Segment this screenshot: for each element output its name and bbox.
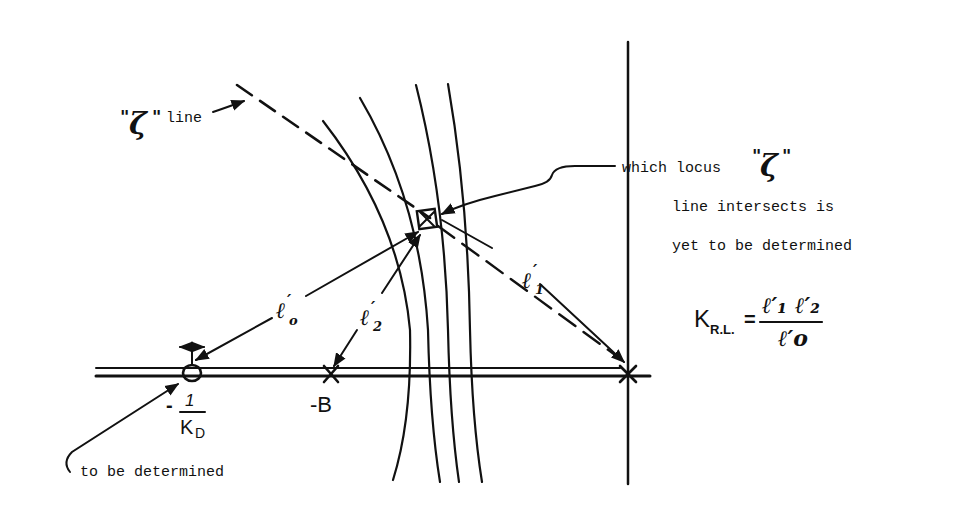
root-locus-curves [323,84,482,482]
zeta-line-label: " ζ " line [120,106,202,141]
svg-text:yet to be determined: yet to be determined [672,238,852,255]
l0-vector [196,232,418,360]
svg-text:ℓ′₂: ℓ′₂ [795,292,820,318]
svg-text:ℓ′o: ℓ′o [778,325,808,351]
annotation-bottom: to be determined [80,464,224,481]
svg-text:line: line [166,110,202,127]
svg-text:which locus: which locus [622,160,721,177]
svg-text:ζ: ζ [129,106,149,141]
svg-text:′: ′ [533,261,538,280]
svg-text:": " [782,145,791,166]
annotation-leader [442,166,615,214]
l1-label: ℓ ′ 1 [522,261,544,297]
bottom-leader [66,384,178,472]
test-point-icon [417,209,437,229]
svg-text:line intersects is: line intersects is [672,199,834,216]
l0-label: ℓ ′ o [276,291,298,328]
svg-text:′: ′ [371,298,376,317]
zero-label: - 1 K D [166,391,205,441]
svg-text:=: = [744,308,756,330]
zeta-line [237,85,430,218]
svg-text:K: K [180,416,194,438]
svg-text:1: 1 [535,282,544,297]
svg-text:K: K [694,305,710,332]
svg-text:-: - [166,394,173,416]
root-locus-diagram: " ζ " line which locus " ζ " line inters… [0,0,961,507]
pole-label: -B [310,392,332,417]
l2-label: ℓ ′ 2 [360,298,382,334]
real-axis [96,368,650,376]
svg-text:1: 1 [185,391,194,410]
svg-text:ℓ′₁: ℓ′₁ [762,292,787,318]
svg-text:′: ′ [287,291,292,310]
zeta-label-arrow [213,101,244,112]
svg-text:D: D [195,425,205,441]
svg-text:ℓ: ℓ [276,297,285,323]
gain-formula: K R.L. = ℓ′₁ ℓ′₂ ℓ′o [694,292,822,351]
svg-text:": " [152,106,161,127]
svg-text:": " [120,106,129,127]
svg-text:2: 2 [372,319,382,334]
svg-text:ℓ: ℓ [522,267,531,293]
svg-text:o: o [289,313,298,328]
annotation-right: which locus " ζ " line intersects is yet… [622,145,852,255]
svg-text:ℓ: ℓ [360,304,369,330]
svg-text:ζ: ζ [760,148,780,183]
svg-text:R.L.: R.L. [710,322,735,337]
